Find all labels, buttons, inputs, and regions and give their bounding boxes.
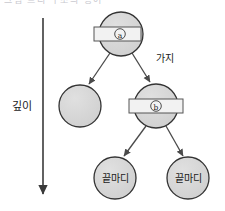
tree-diagram-canvas: 깊이 가지 a b 끝마 — [0, 0, 225, 211]
root-node-a: a — [94, 12, 143, 56]
leaf-node-right: 끝마디 — [167, 157, 209, 199]
edge-b-to-leaf-right — [166, 126, 183, 156]
depth-axis-group: 깊이 — [12, 18, 43, 194]
leaf-node-left: 끝마디 — [94, 157, 136, 199]
tree-structure-figure: 그림 트리 구조의 용어 깊이 가지 — [0, 0, 225, 211]
edge-b-to-leaf-left — [124, 126, 146, 156]
leaf-node-left-label: 끝마디 — [102, 173, 129, 184]
node-b: b — [129, 84, 183, 128]
plain-node-circle — [59, 85, 101, 127]
badge-a-label: a — [118, 31, 123, 40]
edge-root-to-node-b — [132, 53, 150, 82]
plain-node — [59, 85, 101, 127]
depth-label: 깊이 — [12, 100, 32, 113]
edge-root-to-plain-node — [89, 53, 110, 84]
badge-b-label: b — [154, 103, 159, 112]
branch-label: 가지 — [156, 53, 174, 64]
leaf-node-right-label: 끝마디 — [175, 173, 202, 184]
